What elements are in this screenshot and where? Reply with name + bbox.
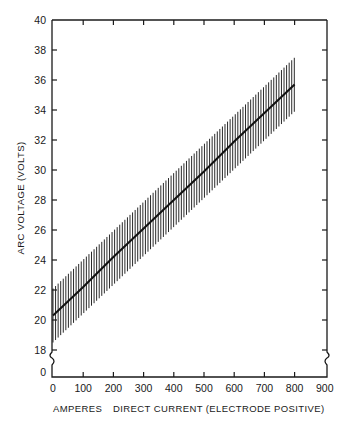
x-tick-label: 300	[135, 382, 153, 394]
x-tick-label: 100	[74, 382, 92, 394]
x-axis-ticks: 0100200300400500600700800900	[50, 372, 334, 394]
x-tick-label: 900	[316, 382, 334, 394]
x-tick-label: 0	[50, 382, 56, 394]
y-tick-label: 30	[34, 164, 46, 176]
x-tick-label: 700	[256, 382, 274, 394]
y-tick-label: 26	[34, 224, 46, 236]
x-tick-label: 600	[225, 382, 243, 394]
y-tick-label: 22	[34, 284, 46, 296]
mean-voltage-line	[53, 85, 295, 316]
x-axis-title-left: AMPERES	[53, 403, 102, 414]
y-tick-label: 18	[34, 344, 46, 356]
x-tick-label: 500	[195, 382, 213, 394]
x-tick-label: 400	[165, 382, 183, 394]
y-tick-label: 0	[40, 366, 46, 378]
y-tick-label: 38	[34, 44, 46, 56]
y-axis-title: ARC VOLTAGE (VOLTS)	[15, 141, 26, 254]
y-tick-label: 24	[34, 254, 46, 266]
y-tick-label: 34	[34, 104, 46, 116]
y-tick-label: 28	[34, 194, 46, 206]
right-axis-ticks	[322, 50, 327, 350]
y-tick-label: 20	[34, 314, 46, 326]
arc-voltage-chart: 0182022242628303234363840 01002003004005…	[0, 0, 348, 426]
y-axis-ticks: 0182022242628303234363840	[34, 14, 57, 378]
y-tick-label: 40	[34, 14, 46, 26]
x-tick-label: 800	[286, 382, 304, 394]
top-axis-ticks	[83, 20, 294, 25]
x-tick-label: 200	[105, 382, 123, 394]
y-tick-label: 32	[34, 134, 46, 146]
right-border	[325, 20, 329, 377]
x-axis-title-right: DIRECT CURRENT (ELECTRODE POSITIVE)	[113, 403, 325, 414]
y-tick-label: 36	[34, 74, 46, 86]
